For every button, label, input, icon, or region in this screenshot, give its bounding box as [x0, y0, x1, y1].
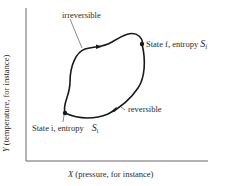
state-i-label: State i, entropy Si: [32, 123, 99, 134]
state-i-subscript: i: [97, 128, 99, 134]
entropy-cycle-diagram: Y (temperature, for instance) X (pressur…: [0, 0, 229, 186]
state-f-point: [140, 42, 144, 46]
diagram-canvas: [0, 0, 229, 186]
x-axis-text: (pressure, for instance): [73, 169, 153, 179]
state-i-leader-line: [63, 115, 64, 122]
state-f-subscript: f: [205, 44, 207, 50]
reversible-label: reversible: [128, 105, 162, 114]
x-axis-label: X (pressure, for instance): [68, 170, 153, 179]
state-f-text: State f, entropy: [146, 39, 200, 49]
y-axis-label: Y (temperature, for instance): [2, 55, 11, 152]
irreversible-label: irreversible: [62, 11, 101, 20]
reversible-leader-line: [121, 107, 125, 110]
irreversible-leader-line: [70, 19, 82, 48]
irreversible-arrow-icon: [96, 45, 102, 50]
irreversible-path: [64, 34, 142, 113]
state-f-label: State f, entropy Sf: [146, 39, 207, 50]
y-axis-var: Y: [1, 147, 11, 152]
y-axis-text: (temperature, for instance): [1, 55, 11, 148]
state-i-text: State i, entropy: [32, 123, 86, 133]
state-i-point: [63, 111, 67, 115]
